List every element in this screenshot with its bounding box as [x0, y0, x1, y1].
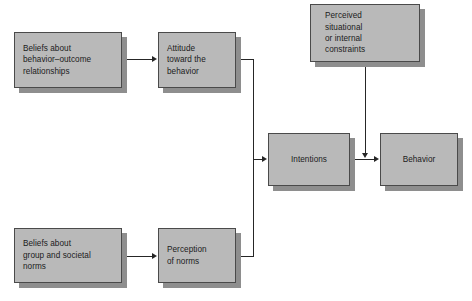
edge-constraints-drop-line [365, 62, 366, 154]
node-behavior: Behavior [380, 133, 458, 186]
node-intentions: Intentions [268, 133, 350, 186]
edge-beliefs-to-attitude-line [122, 59, 153, 60]
node-beliefs-group-societal-norms-label: Beliefs about group and societal norms [15, 238, 121, 272]
node-beliefs-behavior-outcome-label: Beliefs about behavior–outcome relations… [15, 43, 121, 77]
edge-bus-vertical-line [253, 59, 254, 257]
node-intentions-label: Intentions [269, 154, 349, 165]
edge-constraints-drop-arrowhead [362, 153, 368, 158]
node-attitude-toward-behavior: Attitude toward the behavior [158, 32, 236, 88]
edge-intentions-to-behavior-line [350, 159, 376, 160]
flowchart-canvas: Beliefs about behavior–outcome relations… [0, 0, 472, 301]
edge-norms-beliefs-to-perception-line [122, 256, 153, 257]
edge-perception-to-bus-line [236, 256, 254, 257]
node-beliefs-behavior-outcome: Beliefs about behavior–outcome relations… [14, 32, 122, 88]
edge-beliefs-to-attitude-arrowhead [152, 56, 157, 62]
edge-intentions-to-behavior-arrowhead [374, 156, 379, 162]
node-attitude-toward-behavior-label: Attitude toward the behavior [159, 43, 235, 77]
node-perception-of-norms-label: Perception of norms [159, 244, 235, 267]
node-perception-of-norms: Perception of norms [158, 228, 236, 283]
edge-bus-to-intentions-arrowhead [262, 156, 267, 162]
node-beliefs-group-societal-norms: Beliefs about group and societal norms [14, 228, 122, 283]
edge-attitude-to-bus-line [236, 59, 254, 60]
node-perceived-constraints: Perceived situational or internal constr… [310, 4, 420, 62]
edge-norms-beliefs-to-perception-arrowhead [152, 253, 157, 259]
node-perceived-constraints-label: Perceived situational or internal constr… [311, 10, 419, 56]
node-behavior-label: Behavior [381, 154, 457, 165]
